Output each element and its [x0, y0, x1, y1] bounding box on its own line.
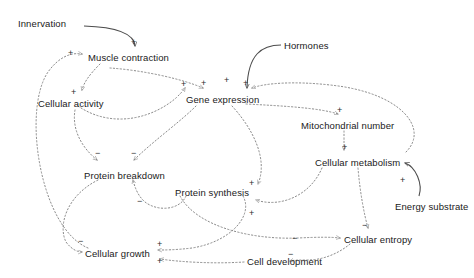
polarity-sign-protein-breakdown-cellular-growth: −	[78, 237, 83, 246]
node-protein-breakdown[interactable]: Protein breakdown	[84, 170, 165, 181]
polarity-sign-gene-expression-protein-breakdown: −	[131, 149, 136, 158]
node-cellular-metabolism[interactable]: Cellular metabolism	[315, 157, 400, 168]
polarity-sign-protein-synthesis-protein-breakdown: −	[137, 197, 142, 206]
edge-cellular-metabolism-to-gene-expression	[252, 83, 414, 152]
polarity-sign-cellular-activity-protein-breakdown: −	[95, 149, 100, 158]
polarity-sign-hormones-gene-expression: +	[224, 76, 229, 85]
node-energy-substrate[interactable]: Energy substrate	[395, 201, 468, 212]
edge-cellular-metabolism-to-cellular-entropy	[358, 168, 368, 228]
causal-loop-diagram: Innervation Muscle contraction Hormones …	[0, 0, 474, 278]
edge-muscle-contraction-to-gene-expression	[110, 68, 203, 88]
polarity-sign-gene-expression-protein-synthesis: +	[249, 179, 254, 188]
node-cellular-growth[interactable]: Cellular growth	[85, 248, 150, 259]
polarity-sign-energy-substrate-cellular-metabolism: +	[400, 176, 405, 185]
polarity-sign-cellular-entropy-cell-development: −	[288, 250, 293, 259]
edge-cell-development-to-cellular-growth	[160, 259, 244, 263]
polarity-sign-gene-expression-mitochondrial-number: +	[337, 106, 342, 115]
edge-hormones-to-gene-expression	[247, 45, 281, 88]
node-muscle-contraction[interactable]: Muscle contraction	[88, 52, 169, 63]
node-cellular-entropy[interactable]: Cellular entropy	[344, 234, 412, 245]
polarity-sign-cellular-metabolism-cellular-entropy: −	[362, 221, 367, 230]
polarity-sign-cellular-growth-muscle-contraction: +	[68, 49, 73, 58]
node-protein-synthesis[interactable]: Protein synthesis	[175, 187, 249, 198]
polarity-sign-cellular-activity-gene-expression: +	[181, 80, 186, 89]
node-cell-development[interactable]: Cell development	[247, 256, 322, 267]
edge-protein-synthesis-to-cellular-growth	[158, 196, 246, 250]
polarity-sign-cell-development-cellular-entropy: −	[292, 234, 297, 243]
node-cellular-activity[interactable]: Cellular activity	[38, 98, 104, 109]
edge-gene-expression-to-protein-synthesis	[232, 106, 261, 184]
edge-gene-expression-to-mitochondrial-number	[246, 104, 338, 114]
edge-muscle-contraction-to-cellular-activity	[82, 64, 100, 90]
polarity-sign-cellular-metabolism-protein-synthesis: +	[249, 209, 254, 218]
node-mitochondrial-number[interactable]: Mitochondrial number	[301, 120, 394, 131]
polarity-sign-mitochondrial-number-cellular-metabolism: +	[342, 143, 347, 152]
node-hormones[interactable]: Hormones	[284, 40, 329, 51]
edge-innervation-to-muscle-contraction	[84, 26, 135, 46]
polarity-sign-innervation-muscle-contraction: +	[131, 38, 136, 47]
polarity-sign-muscle-contraction-cellular-activity: +	[71, 88, 76, 97]
polarity-sign-cellular-metabolism-gene-expression: +	[243, 79, 248, 88]
node-gene-expression[interactable]: Gene expression	[186, 94, 259, 105]
edge-cell-development-to-cellular-entropy	[180, 196, 340, 238]
polarity-sign-cell-development-cellular-growth: +	[157, 257, 162, 266]
edge-gene-expression-to-protein-breakdown	[134, 106, 196, 160]
node-innervation[interactable]: Innervation	[18, 18, 66, 29]
polarity-sign-protein-synthesis-cellular-growth: +	[157, 240, 162, 249]
edge-cellular-activity-to-protein-breakdown	[74, 110, 97, 160]
edge-cellular-metabolism-to-protein-synthesis	[256, 168, 322, 202]
edge-energy-substrate-to-cellular-metabolism	[405, 163, 420, 196]
edge-cellular-growth-to-muscle-contraction	[36, 54, 88, 248]
polarity-sign-muscle-contraction-gene-expression: +	[201, 79, 206, 88]
